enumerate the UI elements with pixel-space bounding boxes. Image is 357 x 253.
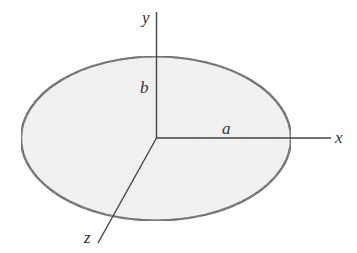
ellipse-diagram: y x z b a — [0, 0, 357, 253]
diagram-svg: y x z b a — [0, 0, 357, 253]
y-axis-label: y — [140, 8, 150, 27]
semi-axis-a-label: a — [222, 119, 231, 138]
z-axis-label: z — [83, 228, 91, 247]
x-axis-label: x — [334, 128, 343, 147]
semi-axis-b-label: b — [140, 78, 149, 97]
